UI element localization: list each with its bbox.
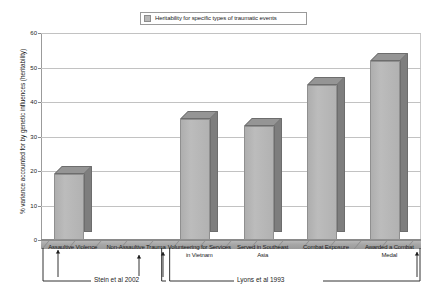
bar-front-face	[307, 85, 337, 240]
bar-3	[180, 33, 218, 240]
plot-area: 0102030405060	[41, 33, 421, 240]
bar-1	[54, 33, 92, 240]
legend-label: Heritability for specific types of traum…	[155, 15, 277, 22]
y-tick-label: 0	[34, 237, 37, 243]
y-tick-label: 10	[30, 203, 37, 209]
x-tick-label: Awarded a Combat Medal	[358, 243, 421, 259]
group-label-lyons: Lyons et al 1993	[234, 276, 287, 284]
bar-6	[370, 33, 408, 240]
bar-side-face	[274, 118, 282, 232]
x-tick-label: Combat Exposure	[294, 243, 357, 251]
series-swatch-icon	[144, 15, 151, 22]
x-tick-label: Assaultive Violence	[41, 243, 104, 251]
y-tick-label: 50	[30, 65, 37, 71]
bar-side-face	[400, 53, 408, 232]
bar-front-face	[244, 126, 274, 240]
y-axis-title: % variance accounted for by genetic infl…	[19, 22, 26, 242]
bar-series	[41, 33, 421, 240]
bar-side-face	[337, 77, 345, 232]
bar-side-face	[210, 111, 218, 232]
bar-4	[244, 33, 282, 240]
bar-side-face	[84, 166, 92, 232]
x-axis-labels: Assaultive ViolenceNon-Assaultive Trauma…	[41, 243, 421, 265]
bar-front-face	[180, 119, 210, 240]
y-tick-label: 20	[30, 168, 37, 174]
bar-front-face	[54, 174, 84, 240]
x-tick-label: Non-Assaultive Trauma	[104, 243, 167, 251]
bar-5	[307, 33, 345, 240]
chart-figure: Heritability for specific types of traum…	[0, 0, 435, 297]
x-tick-label: Served in Southeast Asia	[231, 243, 294, 259]
y-tick-label: 30	[30, 134, 37, 140]
y-tick-label: 40	[30, 99, 37, 105]
y-tick-label: 60	[30, 30, 37, 36]
chart-legend: Heritability for specific types of traum…	[140, 12, 307, 25]
bar-front-face	[370, 61, 400, 240]
x-tick-label: Volunteering for Services in Vietnam	[168, 243, 231, 259]
bar-2	[117, 33, 155, 240]
group-label-stein: Stein et al 2002	[91, 276, 142, 284]
